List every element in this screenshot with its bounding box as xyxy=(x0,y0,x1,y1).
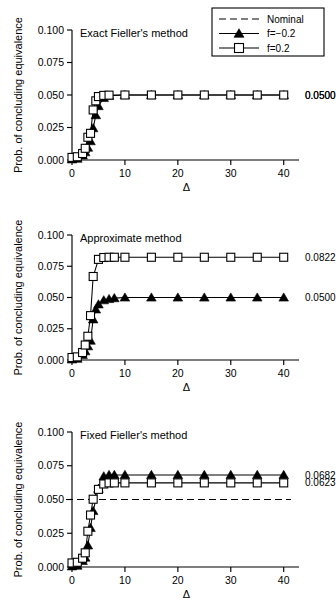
y-tick-label-1: 0.025 xyxy=(38,322,64,334)
y-tick-label-0: 0.000 xyxy=(38,354,64,366)
series-line-0 xyxy=(72,298,284,360)
marker-open-square xyxy=(89,495,97,503)
marker-open-square xyxy=(87,129,95,137)
legend-label-0: Nominal xyxy=(267,14,304,25)
x-tick-label-0: 0 xyxy=(69,367,75,379)
marker-open-square xyxy=(89,273,97,281)
chart-panel-approximate: 0.0000.0250.0500.0750.100010203040ΔProb.… xyxy=(0,205,336,405)
marker-open-square xyxy=(200,253,208,261)
x-tick-label-4: 40 xyxy=(278,574,290,586)
marker-open-square xyxy=(174,479,182,487)
y-axis-title: Prob. of concluding equivalence xyxy=(12,17,24,173)
marker-open-square xyxy=(280,479,288,487)
panel-title-2: Fixed Fieller's method xyxy=(80,429,187,441)
legend-label-2: f=0.2 xyxy=(267,43,290,54)
x-tick-label-4: 40 xyxy=(278,167,290,179)
series-line-0 xyxy=(72,95,284,159)
marker-open-square xyxy=(253,91,261,99)
series-end-label-1: 0.0822 xyxy=(305,252,336,263)
x-tick-label-0: 0 xyxy=(69,167,75,179)
marker-open-square xyxy=(200,91,208,99)
series-end-label-0: 0.0500 xyxy=(305,292,336,303)
chart-panel-fixed-fieller: 0.0000.0250.0500.0750.100010203040ΔProb.… xyxy=(0,405,336,612)
marker-open-square xyxy=(79,349,87,357)
y-tick-label-1: 0.025 xyxy=(38,121,64,133)
marker-open-square xyxy=(110,253,118,261)
series-line-1 xyxy=(72,483,284,563)
figure-three-panel-equivalence-probability: 0.0000.0250.0500.0750.100010203040ΔProb.… xyxy=(0,0,336,612)
plot-area-0: 0.0000.0250.0500.0750.100010203040ΔProb.… xyxy=(0,0,336,205)
x-axis-title: Δ xyxy=(183,181,191,193)
marker-open-square xyxy=(280,91,288,99)
y-axis-title: Prob. of concluding equivalence xyxy=(12,220,24,376)
marker-open-square xyxy=(280,253,288,261)
x-tick-label-1: 10 xyxy=(119,574,131,586)
legend-marker-open-square xyxy=(235,44,244,53)
series-line-1 xyxy=(72,257,284,357)
marker-open-square xyxy=(81,341,89,349)
plot-area-2: 0.0000.0250.0500.0750.100010203040ΔProb.… xyxy=(0,405,336,612)
marker-open-square xyxy=(84,332,92,340)
chart-panel-exact-fieller: 0.0000.0250.0500.0750.100010203040ΔProb.… xyxy=(0,0,336,205)
x-tick-label-3: 30 xyxy=(225,574,237,586)
marker-open-square xyxy=(253,253,261,261)
marker-open-square xyxy=(110,479,118,487)
marker-open-square xyxy=(227,479,235,487)
marker-open-square xyxy=(87,511,95,519)
marker-open-square xyxy=(84,527,92,535)
panel-title-1: Approximate method xyxy=(80,232,182,244)
y-tick-label-2: 0.050 xyxy=(38,493,64,505)
y-tick-label-3: 0.075 xyxy=(38,260,64,272)
x-tick-label-1: 10 xyxy=(119,167,131,179)
y-tick-label-4: 0.100 xyxy=(38,229,64,241)
marker-open-square xyxy=(200,479,208,487)
marker-open-square xyxy=(227,253,235,261)
marker-filled-triangle xyxy=(83,541,93,549)
y-tick-label-0: 0.000 xyxy=(38,561,64,573)
marker-open-square xyxy=(81,144,89,152)
series-end-label-1: 0.0500 xyxy=(305,90,336,101)
x-tick-label-2: 20 xyxy=(172,574,184,586)
x-tick-label-2: 20 xyxy=(172,367,184,379)
series-line-1 xyxy=(72,95,284,157)
marker-open-square xyxy=(121,91,129,99)
y-tick-label-3: 0.075 xyxy=(38,459,64,471)
x-tick-label-0: 0 xyxy=(69,574,75,586)
marker-open-square xyxy=(89,106,97,114)
marker-open-square xyxy=(227,91,235,99)
x-tick-label-1: 10 xyxy=(119,367,131,379)
marker-open-square xyxy=(253,479,261,487)
x-tick-label-3: 30 xyxy=(225,367,237,379)
marker-open-square xyxy=(147,91,155,99)
series-end-label-1: 0.0623 xyxy=(305,477,336,488)
x-axis-title: Δ xyxy=(183,381,191,393)
y-tick-label-2: 0.050 xyxy=(38,291,64,303)
marker-open-square xyxy=(147,253,155,261)
y-tick-label-2: 0.050 xyxy=(38,89,64,101)
plot-area-1: 0.0000.0250.0500.0750.100010203040ΔProb.… xyxy=(0,205,336,405)
y-tick-label-3: 0.075 xyxy=(38,56,64,68)
panel-title-0: Exact Fieller's method xyxy=(80,27,188,39)
marker-open-square xyxy=(81,549,89,557)
marker-open-square xyxy=(147,479,155,487)
y-tick-label-1: 0.025 xyxy=(38,527,64,539)
y-tick-label-4: 0.100 xyxy=(38,24,64,36)
y-axis-title: Prob. of concluding equivalence xyxy=(12,422,24,578)
y-tick-label-0: 0.000 xyxy=(38,154,64,166)
marker-open-square xyxy=(121,479,129,487)
marker-open-square xyxy=(174,91,182,99)
legend-label-1: f=−0.2 xyxy=(267,28,296,39)
y-tick-label-4: 0.100 xyxy=(38,426,64,438)
x-tick-label-2: 20 xyxy=(172,167,184,179)
marker-open-square xyxy=(87,312,95,320)
marker-open-square xyxy=(121,253,129,261)
series-line-0 xyxy=(72,475,284,566)
x-tick-label-4: 40 xyxy=(278,367,290,379)
marker-open-square xyxy=(174,253,182,261)
x-axis-title: Δ xyxy=(183,588,191,600)
x-tick-label-3: 30 xyxy=(225,167,237,179)
marker-open-square xyxy=(105,91,113,99)
